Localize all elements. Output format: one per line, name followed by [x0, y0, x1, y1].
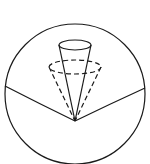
solid-cone-right-edge [75, 45, 91, 121]
sphere-cone-diagram [0, 0, 150, 164]
dashed-cone-left-edge [49, 67, 75, 121]
surface-curve [5, 86, 145, 121]
dashed-cone-right-edge [75, 67, 101, 121]
sphere-outline [5, 24, 145, 164]
solid-cone-rim [59, 40, 91, 50]
dashed-cone-rim [49, 60, 101, 74]
solid-cone-left-edge [59, 45, 75, 121]
